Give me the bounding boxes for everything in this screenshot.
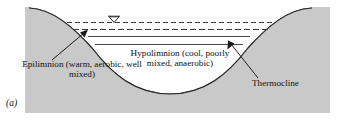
panel-label: (a) <box>6 98 17 108</box>
thermocline-label: Thermocline <box>252 79 330 89</box>
hypolimnion-label: Hypolimnion (cool, poorly mixed, anaerob… <box>121 49 239 69</box>
lake-stratification-figure: Epilimnion (warm, aerobic, well mixed) H… <box>0 0 341 121</box>
